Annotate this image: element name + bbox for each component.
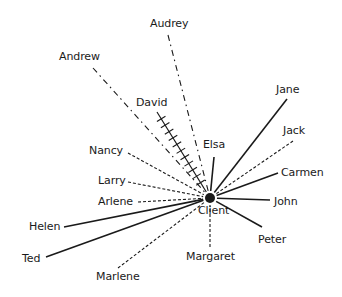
node-label-john: John <box>274 195 298 208</box>
relationship-lines <box>0 0 342 297</box>
node-label-david: David <box>136 96 167 109</box>
node-label-carmen: Carmen <box>281 166 324 179</box>
relationship-line-jane <box>214 99 287 192</box>
node-label-elsa: Elsa <box>203 138 225 151</box>
relationship-line-elsa <box>211 157 214 191</box>
node-label-margaret: Margaret <box>186 250 235 263</box>
relationship-line-audrey <box>168 35 208 191</box>
sociogram-diagram: AudreyAndrewDavidElsaJaneJackCarmenJohnP… <box>0 0 342 297</box>
node-label-andrew: Andrew <box>59 50 100 63</box>
node-label-nancy: Nancy <box>89 144 123 157</box>
relationship-line-larry <box>128 182 203 197</box>
node-label-arlene: Arlene <box>98 195 133 208</box>
relationship-line-john <box>217 198 270 200</box>
node-label-ted: Ted <box>22 252 40 265</box>
relationship-line-carmen <box>217 173 278 196</box>
node-label-peter: Peter <box>258 233 286 246</box>
relationship-line-helen <box>64 199 203 227</box>
node-label-audrey: Audrey <box>150 17 188 30</box>
relationship-line-nancy <box>128 153 204 195</box>
node-label-jane: Jane <box>276 83 299 96</box>
center-label-client: Client <box>198 204 229 217</box>
node-label-helen: Helen <box>29 220 60 233</box>
client-node-dot <box>205 193 215 203</box>
node-label-larry: Larry <box>98 174 126 187</box>
node-label-marlene: Marlene <box>96 270 140 283</box>
relationship-line-ted <box>46 200 203 257</box>
relationship-line-david <box>157 112 206 192</box>
node-label-jack: Jack <box>283 124 305 137</box>
